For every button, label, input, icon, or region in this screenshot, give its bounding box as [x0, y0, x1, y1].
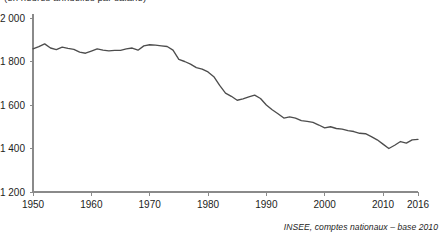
chart-page: (en heures annuelles par salarié) 1 2001… [0, 0, 441, 233]
x-axis-tick-label: 2016 [407, 199, 430, 210]
y-axis-tick-label: 1 200 [0, 187, 25, 198]
y-axis-tick-label: 1 800 [0, 56, 25, 67]
y-axis-tick-labels: 1 2001 4001 6001 8002 000 [0, 13, 25, 198]
y-axis-tick-label: 1 400 [0, 143, 25, 154]
data-series-line [33, 44, 418, 149]
y-axis-tick-label: 1 600 [0, 100, 25, 111]
x-axis-tick-labels: 19501960197019801990200020102016 [22, 199, 430, 210]
x-axis-tick-label: 1980 [197, 199, 220, 210]
x-axis-tick-label: 2000 [314, 199, 337, 210]
x-axis-tick-label: 1950 [22, 199, 45, 210]
x-axis-tick-label: 1970 [139, 199, 162, 210]
y-axis-tick-label: 2 000 [0, 13, 25, 24]
x-axis-tick-marks [33, 192, 418, 196]
x-axis-tick-label: 2010 [372, 199, 395, 210]
x-axis-tick-label: 1960 [80, 199, 103, 210]
line-chart-svg: 1 2001 4001 6001 8002 000 19501960197019… [0, 0, 441, 233]
chart-plot-area: 1 2001 4001 6001 8002 000 19501960197019… [0, 0, 441, 233]
source-caption: INSEE, comptes nationaux – base 2010 [284, 222, 438, 232]
x-axis-tick-label: 1990 [255, 199, 278, 210]
